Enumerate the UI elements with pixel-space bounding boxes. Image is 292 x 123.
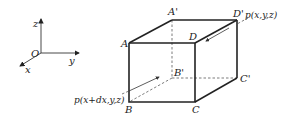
edge-CC' xyxy=(195,78,237,102)
vertex-A-prime-label: A' xyxy=(167,6,178,17)
z-axis-label: z xyxy=(32,18,39,29)
edge-DD' xyxy=(195,20,237,43)
vertex-B-prime-label: B' xyxy=(173,67,184,78)
vertex-A-label: A xyxy=(120,38,128,49)
vertex-C-label: C xyxy=(192,104,200,115)
edge-B'B xyxy=(129,78,172,102)
origin-label: O xyxy=(31,48,39,59)
diagram-svg: z O y x A A' D D' B' C' B C p(x+dx,y,z) … xyxy=(0,0,292,123)
leader-front xyxy=(122,91,129,94)
x-axis-label: x xyxy=(25,64,31,75)
arrow-front-flux xyxy=(129,77,159,91)
vertex-C-prime-label: C' xyxy=(240,73,250,84)
front-face xyxy=(129,43,195,102)
vertex-D-label: D xyxy=(188,31,197,42)
edge-AA' xyxy=(129,20,172,43)
vertex-D-prime-label: D' xyxy=(232,8,244,19)
pressure-back-label: p(x,y,z) xyxy=(245,10,278,20)
pressure-front-label: p(x+dx,y,z) xyxy=(74,95,125,105)
vertex-B-label: B xyxy=(124,104,132,115)
cube-diagram: z O y x A A' D D' B' C' B C p(x+dx,y,z) … xyxy=(0,0,292,123)
y-axis-label: y xyxy=(68,55,75,66)
